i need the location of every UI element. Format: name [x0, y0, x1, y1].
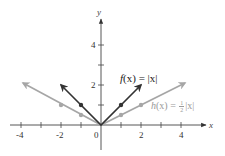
y-axis-label: y [97, 8, 101, 17]
one-half-fraction: 12 [179, 100, 184, 113]
origin-label: 0 [94, 131, 99, 140]
f-point [79, 103, 83, 107]
h-equation-label: h(x) = 12|x| [151, 100, 194, 113]
f-point [119, 103, 123, 107]
h-point [119, 113, 123, 117]
h-point [139, 103, 143, 107]
y-tick-label-4: 4 [91, 41, 96, 50]
x-tick-label-neg2: -2 [56, 131, 64, 140]
f-equation-label: f(x) = |x| [120, 73, 158, 84]
y-tick-label-2: 2 [91, 81, 96, 90]
h-point [79, 113, 83, 117]
x-tick-label-2: 2 [139, 131, 144, 140]
x-axis [10, 122, 206, 128]
h-point [59, 103, 63, 107]
x-tick-label-neg4: -4 [16, 131, 24, 140]
x-tick-label-4: 4 [179, 131, 184, 140]
x-axis-label: x [209, 121, 213, 130]
graph-canvas [0, 0, 225, 156]
